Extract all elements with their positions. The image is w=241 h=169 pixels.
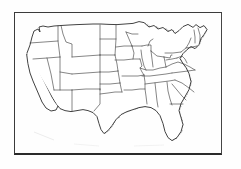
us-distribution-map [14,12,222,155]
us-boundary-path [27,22,207,141]
figure-container [0,0,241,169]
scan-grain-texture [34,132,164,146]
